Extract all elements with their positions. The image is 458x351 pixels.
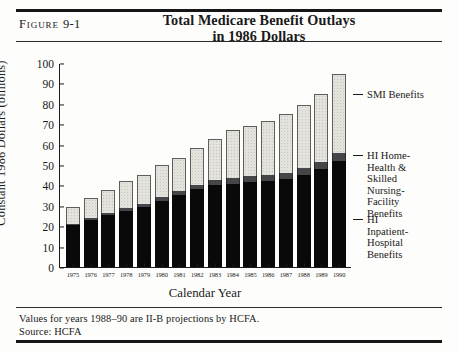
x-tick-mark <box>144 263 145 267</box>
bar-1976 <box>84 198 98 267</box>
bar-segment-smi <box>66 207 80 224</box>
bar-segment-inpatient <box>261 181 275 267</box>
bar-segment-smi <box>155 165 169 197</box>
source-note: Source: HCFA <box>19 326 81 337</box>
bar-1979 <box>137 175 151 267</box>
y-tick-label: 20 <box>43 221 55 233</box>
legend-label-line: Health & <box>367 162 410 174</box>
y-tick-label: 30 <box>43 201 55 213</box>
bar-1985 <box>243 126 257 267</box>
bar-1977 <box>101 190 115 268</box>
bar-segment-inpatient <box>243 182 257 267</box>
bar-1989 <box>314 94 328 267</box>
y-tick-label: 100 <box>37 58 54 70</box>
y-tick-label: 90 <box>43 78 55 90</box>
x-tick-mark <box>304 263 305 267</box>
bar-segment-inpatient <box>208 185 222 267</box>
legend-leader-line <box>353 155 363 156</box>
y-tick-label: 40 <box>43 180 55 192</box>
y-tick-label: 80 <box>43 99 55 111</box>
bar-segment-home-health <box>332 153 346 161</box>
bar-1986 <box>261 121 275 267</box>
legend-label-line: Hospital <box>367 237 408 249</box>
x-tick-mark <box>197 263 198 267</box>
bar-segment-inpatient <box>226 184 240 267</box>
bar-segment-smi <box>172 158 186 191</box>
x-tick-mark <box>250 263 251 267</box>
bar-1988 <box>297 105 311 267</box>
legend-label-line: Inpatient- <box>367 226 408 238</box>
x-tick-mark <box>162 263 163 267</box>
y-tick-label: 10 <box>43 242 55 254</box>
legend-leader-line <box>353 219 363 220</box>
bar-segment-home-health <box>314 162 328 169</box>
bar-1990 <box>332 74 346 267</box>
bar-1982 <box>190 148 204 267</box>
bar-1987 <box>279 114 293 267</box>
stacked-bar-chart: Constant 1986 Dollars (billions) 0102030… <box>0 0 458 351</box>
y-tick-label: 60 <box>43 140 55 152</box>
bar-segment-smi <box>314 94 328 162</box>
legend-label-line: Nursing- <box>367 185 410 197</box>
legend-item-smi: SMI Benefits <box>367 89 424 101</box>
legend-label-line: Skilled <box>367 173 410 185</box>
y-tick-label: 70 <box>43 119 55 131</box>
bar-segment-smi <box>243 126 257 176</box>
y-tick-label: 0 <box>48 262 54 274</box>
bar-segment-smi <box>332 74 346 153</box>
bar-segment-home-health <box>297 168 311 175</box>
x-tick-mark <box>179 263 180 267</box>
bar-segment-inpatient <box>172 195 186 267</box>
x-tick-mark <box>339 263 340 267</box>
figure-page: Figure 9-1 Total Medicare Benefit Outlay… <box>0 0 458 351</box>
bar-1978 <box>119 181 133 267</box>
projection-note: Values for years 1988–90 are II-B projec… <box>19 313 259 324</box>
legend-label-line: HI Home- <box>367 150 410 162</box>
plot-area: 0102030405060708090100 19751976197719781… <box>59 64 351 268</box>
bar-segment-inpatient <box>190 189 204 267</box>
bar-segment-inpatient <box>137 207 151 267</box>
bar-segment-smi <box>119 181 133 208</box>
bar-1984 <box>226 130 240 267</box>
bar-segment-smi <box>226 130 240 178</box>
legend-label-line: Facility <box>367 196 410 208</box>
bar-segment-smi <box>297 105 311 168</box>
y-axis-label: Constant 1986 Dollars (billions) <box>0 48 9 238</box>
y-tick-label: 50 <box>43 160 55 172</box>
legend-label-line: Benefits <box>367 249 408 261</box>
bar-segment-smi <box>261 121 275 175</box>
bar-1981 <box>172 158 186 267</box>
bar-segment-inpatient <box>297 175 311 267</box>
x-tick-mark <box>126 263 127 267</box>
bar-segment-inpatient <box>66 225 80 267</box>
bar-1975 <box>66 207 80 267</box>
x-tick-mark <box>73 263 74 267</box>
bar-segment-inpatient <box>332 161 346 267</box>
x-tick-mark <box>321 263 322 267</box>
x-tick-mark <box>268 263 269 267</box>
bar-segment-smi <box>101 190 115 213</box>
x-axis-label: Calendar Year <box>59 286 351 301</box>
x-tick-mark <box>233 263 234 267</box>
bar-segment-inpatient <box>101 215 115 267</box>
bar-segment-inpatient <box>84 220 98 267</box>
bar-group <box>60 64 351 267</box>
x-tick-label: 1990 <box>326 271 352 278</box>
legend-item-hhs: HI Home-Health &SkilledNursing-FacilityB… <box>367 150 410 220</box>
x-tick-mark <box>91 263 92 267</box>
bar-1983 <box>208 139 222 268</box>
bar-segment-smi <box>208 139 222 181</box>
x-tick-mark <box>108 263 109 267</box>
y-tick-mark <box>60 267 64 268</box>
bar-segment-inpatient <box>119 211 133 267</box>
legend-item-hi: HIInpatient-HospitalBenefits <box>367 214 408 260</box>
legend-label-line: HI <box>367 214 408 226</box>
legend-label-line: SMI Benefits <box>367 89 424 101</box>
x-tick-mark <box>215 263 216 267</box>
bar-segment-inpatient <box>314 169 328 267</box>
bar-segment-inpatient <box>279 179 293 267</box>
bar-segment-smi <box>190 148 204 185</box>
bar-segment-smi <box>137 175 151 203</box>
bar-segment-smi <box>84 198 98 218</box>
legend-leader-line <box>353 94 363 95</box>
